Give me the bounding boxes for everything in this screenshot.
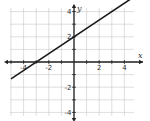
y-tick-label: 4 [67, 8, 72, 16]
y-axis-arrow-down-icon [72, 118, 76, 121]
x-axis-label: x [138, 51, 143, 60]
coordinate-plane: -4-22442-2-4 x y [0, 0, 150, 121]
y-axis-arrow-icon [72, 4, 76, 8]
axes [4, 4, 143, 121]
x-tick-label: 2 [97, 64, 101, 72]
y-tick-label: -2 [65, 84, 72, 92]
x-axis-arrow-left-icon [4, 60, 8, 64]
x-axis-arrow-icon [139, 60, 143, 64]
x-tick-label: -2 [45, 64, 52, 72]
x-tick-label: 4 [122, 64, 127, 72]
y-tick-label: -4 [65, 109, 73, 117]
y-axis-label: y [76, 4, 82, 13]
